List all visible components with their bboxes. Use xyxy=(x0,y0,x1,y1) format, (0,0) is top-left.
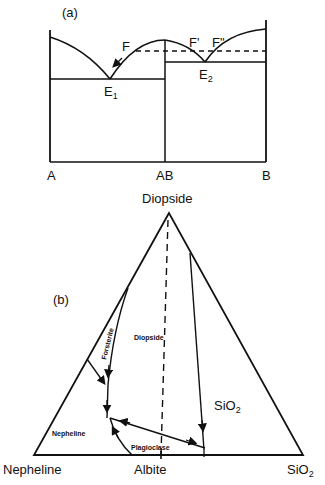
vertex-label-nepheline: Nepheline xyxy=(3,462,62,477)
point-f-double-prime-label: F" xyxy=(212,35,225,50)
point-f-prime-label: F' xyxy=(189,35,199,50)
field-label-plagioclase: Plagioclase xyxy=(131,444,170,452)
panel-b-label: (b) xyxy=(53,292,69,307)
axis-label-ab: AB xyxy=(156,168,173,183)
point-e2-label: E2 xyxy=(199,67,213,84)
point-e1-label: E1 xyxy=(104,84,118,101)
field-label-silica: SiO2 xyxy=(214,398,241,415)
vertex-label-silica: SiO2 xyxy=(287,462,314,479)
panel-a-label: (a) xyxy=(62,5,78,20)
phase-diagram-figure: (a) F F' F" E1 E2 A AB B Diopside (b) xyxy=(0,0,325,485)
arrow-ne-pl xyxy=(113,428,118,438)
field-label-diopside: Diopside xyxy=(134,334,164,342)
field-label-nepheline: Nepheline xyxy=(52,430,86,438)
panel-b-ternary-diagram: Diopside (b) Diopside Forsterite Nepheli… xyxy=(3,191,314,479)
axis-label-b: B xyxy=(262,168,271,183)
panel-a-binary-diagram: (a) F F' F" E1 E2 A AB B xyxy=(47,5,271,183)
ternary-triangle xyxy=(34,213,303,455)
forsterite-diopside-boundary xyxy=(107,288,128,418)
forsterite-nepheline-boundary xyxy=(87,359,104,383)
liquidus-curve-ab-left xyxy=(110,40,165,79)
base-label-albite: Albite xyxy=(134,462,167,477)
liquidus-curve-a xyxy=(50,37,110,79)
apex-label-diopside: Diopside xyxy=(142,191,193,206)
axis-label-a: A xyxy=(47,168,56,183)
point-f-label: F xyxy=(122,39,130,54)
